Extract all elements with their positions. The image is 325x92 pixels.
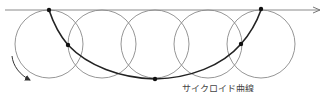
curve-points — [47, 7, 263, 81]
point-end — [259, 7, 263, 11]
rolling-circles — [15, 10, 295, 78]
diagram-caption: サイクロイド曲線 — [182, 84, 254, 92]
circle-1 — [15, 10, 83, 78]
circle-3 — [121, 10, 189, 78]
cycloid-diagram — [0, 0, 325, 92]
point-start — [47, 8, 51, 12]
cycloid-curve — [49, 10, 261, 79]
point-bottom — [153, 77, 157, 81]
point-4 — [239, 42, 243, 46]
point-2 — [66, 43, 70, 47]
circle-5 — [227, 10, 295, 78]
rotation-arrow-icon — [12, 56, 30, 80]
